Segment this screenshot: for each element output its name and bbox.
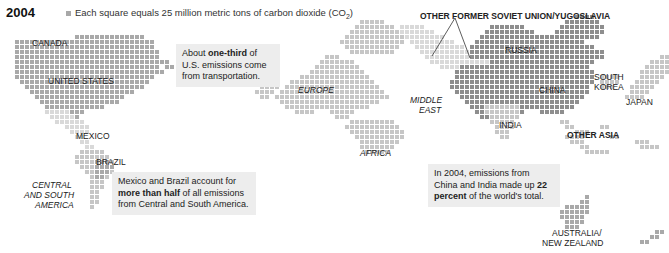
note-china-india: In 2004, emissions from China and India … bbox=[428, 164, 560, 207]
label-central-south-america-2: AND SOUTH bbox=[24, 190, 74, 200]
label-canada: CANADA bbox=[32, 38, 67, 48]
label-mexico: MEXICO bbox=[76, 131, 110, 141]
label-africa: AFRICA bbox=[360, 148, 391, 158]
label-central-south-america: CENTRAL bbox=[32, 180, 72, 190]
label-europe: EUROPE bbox=[298, 85, 334, 95]
label-other-asia: OTHER ASIA bbox=[567, 130, 619, 140]
label-australia: AUSTRALIA/ bbox=[552, 228, 602, 238]
label-india: INDIA bbox=[499, 120, 522, 130]
label-south-korea: SOUTH bbox=[594, 72, 624, 82]
label-other-fsu: OTHER FORMER SOVIET UNION/YUGOSLAVIA bbox=[420, 11, 610, 21]
label-brazil: BRAZIL bbox=[96, 157, 126, 167]
label-russia: RUSSIA bbox=[505, 45, 537, 55]
label-middle-east-2: EAST bbox=[419, 105, 441, 115]
label-central-south-america-3: AMERICA bbox=[35, 200, 74, 210]
note-us-transport: About one-third of U.S. emissions come f… bbox=[176, 44, 280, 87]
label-china: CHINA bbox=[539, 85, 565, 95]
callout-lines bbox=[0, 0, 669, 253]
label-australia-2: NEW ZEALAND bbox=[542, 238, 603, 248]
label-south-korea-2: KOREA bbox=[594, 82, 624, 92]
label-middle-east: MIDDLE bbox=[410, 95, 442, 105]
label-japan: JAPAN bbox=[626, 97, 653, 107]
note-mex-brazil: Mexico and Brazil account for more than … bbox=[112, 172, 256, 215]
label-united-states: UNITED STATES bbox=[48, 76, 114, 86]
